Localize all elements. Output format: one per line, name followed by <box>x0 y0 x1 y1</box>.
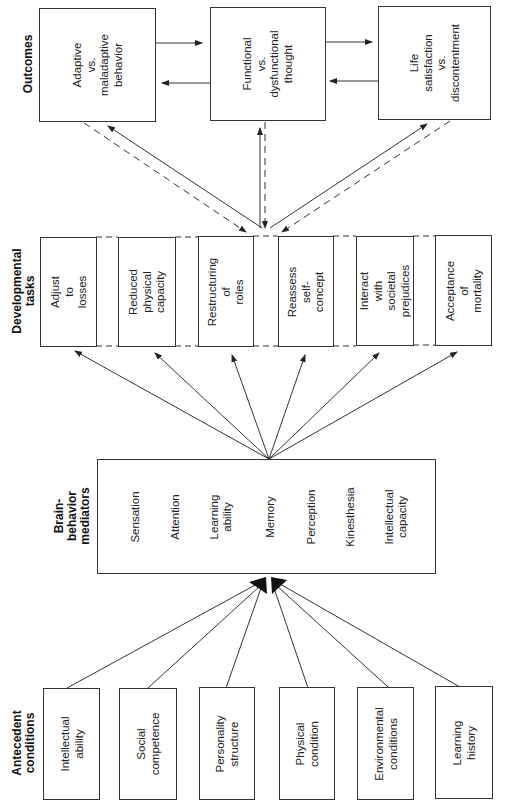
outcome-box-thought: Functional vs. dysfunctional thought <box>210 7 326 121</box>
mediator-learning-ability: Learning ability <box>208 494 234 539</box>
task-box-restructuring-of-roles: Restructuring of roles <box>198 236 254 347</box>
mediator-sensation: Sensation <box>129 491 142 542</box>
task-box-adjust-to-losses: Adjust to losses <box>40 237 97 347</box>
antecedent-box-physical-condition: Physical condition <box>279 687 335 800</box>
section-label-outcomes: Outcomes <box>22 35 35 94</box>
mediator-perception: Perception <box>305 489 318 544</box>
outcome-box-life-satisfaction: Life satisfaction vs. discontentment <box>378 6 491 120</box>
task-box-reduced-physical-capacity: Reduced physical capacity <box>118 237 176 347</box>
antecedent-box-learning-history: Learning history <box>435 686 493 799</box>
antecedent-box-personality-structure: Personality structure <box>199 687 255 800</box>
task-box-acceptance-of-mortality: Acceptance of mortality <box>435 235 492 346</box>
arrowhead-right <box>271 577 287 594</box>
mediator-intellectual-capacity: Intellectual capacity <box>383 489 409 544</box>
section-label-developmental-tasks: Developmental tasks <box>11 248 37 333</box>
mediator-attention: Attention <box>169 494 182 539</box>
mediator-kinesthesia: Kinesthesia <box>344 487 357 546</box>
antecedent-box-social-competence: Social competence <box>119 688 177 800</box>
section-label-antecedents: Antecedent conditions <box>11 710 37 775</box>
mediator-memory: Memory <box>264 496 277 538</box>
task-box-reassess-self-concept: Reassess self- concept <box>278 236 334 347</box>
section-label-mediators: Brain- behavior mediators <box>53 487 92 544</box>
antecedent-box-intellectual-ability: Intellectual ability <box>43 688 100 800</box>
outcome-box-behavior: Adaptive vs. maladaptive behavior <box>39 8 156 122</box>
task-box-interact-with-societal-prejudices: Interact with societal prejudices <box>356 236 414 346</box>
box-text: Adaptive <box>71 34 85 96</box>
antecedent-box-environmental-conditions: Environmental conditions <box>357 687 414 800</box>
arrowhead-left <box>249 577 267 594</box>
mediators-box: Sensation Attention Learning ability Mem… <box>97 459 436 574</box>
